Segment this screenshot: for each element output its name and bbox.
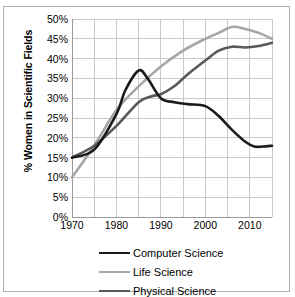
y-axis-tick-label: 45% [30, 33, 68, 45]
chart-container: % Women in Scientific Fields 0%5%10%15%2… [3, 6, 290, 292]
plot-area [72, 19, 272, 217]
legend-line-swatch [99, 271, 130, 273]
x-axis-tick-label: 2000 [183, 219, 227, 231]
y-axis-tick-label: 5% [30, 191, 68, 203]
x-axis-tick-label: 1970 [50, 219, 94, 231]
x-axis-tick-label: 1990 [139, 219, 183, 231]
y-axis-tick-label: 10% [30, 171, 68, 183]
legend-line-swatch [99, 290, 130, 292]
x-axis-tick-label: 1980 [94, 219, 138, 231]
y-axis-tick-label: 25% [30, 112, 68, 124]
legend-line-swatch [99, 252, 130, 254]
series-line [72, 70, 272, 158]
legend-item-label: Computer Science [133, 247, 224, 259]
legend-item-label: Life Science [133, 266, 193, 278]
y-axis-tick-label: 40% [30, 53, 68, 65]
legend-item-label: Physical Science [133, 285, 216, 297]
y-axis-tick-label: 30% [30, 92, 68, 104]
chart-legend: Computer ScienceLife SciencePhysical Sci… [99, 243, 289, 297]
y-axis-tick-labels: 0%5%10%15%20%25%30%35%40%45%50% [30, 19, 68, 217]
chart-plot-wrapper: % Women in Scientific Fields 0%5%10%15%2… [4, 7, 289, 291]
x-axis-tick-label: 2010 [228, 219, 272, 231]
legend-item[interactable]: Computer Science [99, 243, 289, 262]
chart-series-lines [72, 19, 272, 217]
y-axis-tick-label: 50% [30, 13, 68, 25]
x-axis-tick-labels: 19701980199020002010 [72, 219, 272, 237]
y-axis-tick-label: 20% [30, 132, 68, 144]
y-axis-tick-label: 35% [30, 72, 68, 84]
legend-item[interactable]: Life Science [99, 262, 289, 281]
y-axis-tick-label: 15% [30, 152, 68, 164]
legend-item[interactable]: Physical Science [99, 281, 289, 297]
